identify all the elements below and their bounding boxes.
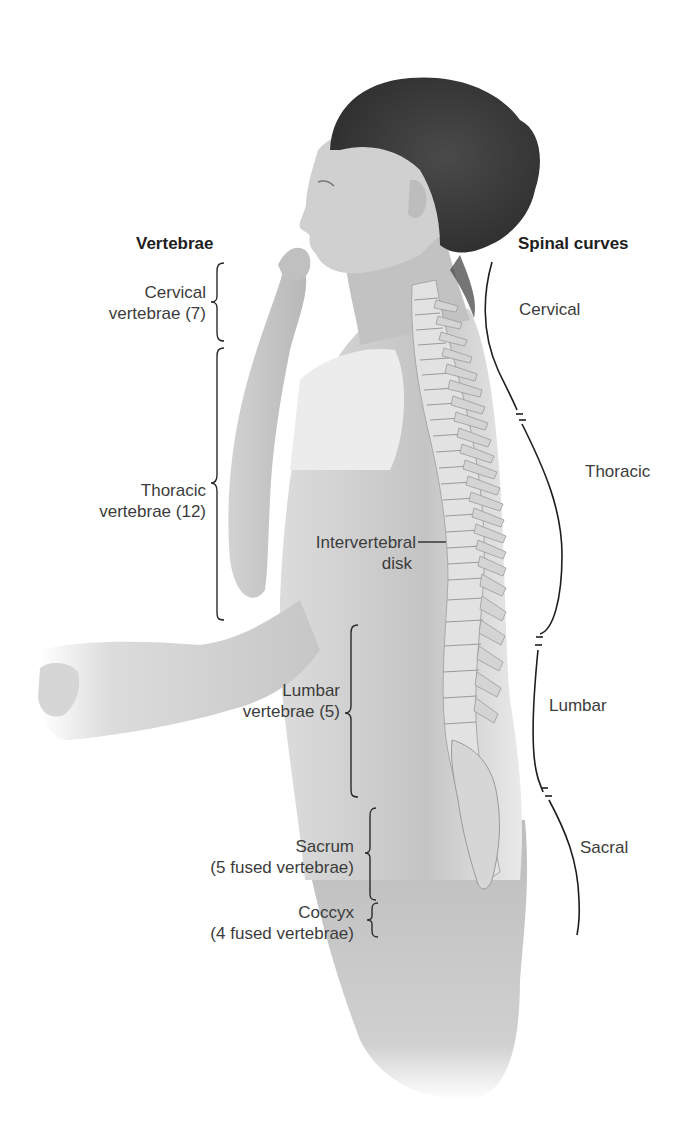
thoracic-brace <box>211 348 224 620</box>
cervical-vertebrae-label-line1: Cervical <box>109 282 206 303</box>
thoracic-vertebrae-label: Thoracic vertebrae (12) <box>99 480 206 522</box>
lumbar-vertebrae-label: Lumbar vertebrae (5) <box>243 680 340 722</box>
sacrum-label-line1: Sacrum <box>210 836 354 857</box>
thoracic-vertebrae-label-line2: vertebrae (12) <box>99 501 206 522</box>
cervical-vertebrae-label: Cervical vertebrae (7) <box>109 282 206 324</box>
coccyx-label-line2: (4 fused vertebrae) <box>210 923 354 944</box>
cervical-brace <box>211 263 224 341</box>
sacrum-label-line2: (5 fused vertebrae) <box>210 857 354 878</box>
vertebrae-heading: Vertebrae <box>136 234 214 254</box>
thoracic-curve-label: Thoracic <box>585 461 650 482</box>
thoracic-vertebrae-label-line1: Thoracic <box>99 480 206 501</box>
coccyx-label: Coccyx (4 fused vertebrae) <box>210 902 354 944</box>
sacral-curve-label: Sacral <box>580 837 628 858</box>
coccyx-label-line1: Coccyx <box>210 902 354 923</box>
intervertebral-disk-label: Intervertebral disk <box>316 532 416 574</box>
intervertebral-disk-label-line1: Intervertebral <box>316 532 416 553</box>
thoracic-curve-line <box>522 424 562 634</box>
lumbar-curve-label: Lumbar <box>549 695 607 716</box>
intervertebral-disk-label-line2: disk <box>316 553 416 574</box>
cervical-curve-label: Cervical <box>519 299 580 320</box>
sacral-curve-line <box>549 800 579 935</box>
spine-diagram: Vertebrae Spinal curves Cervical vertebr… <box>0 0 688 1147</box>
cervical-vertebrae-label-line2: vertebrae (7) <box>109 303 206 324</box>
lumbar-vertebrae-label-line1: Lumbar <box>243 680 340 701</box>
lumbar-vertebrae-label-line2: vertebrae (5) <box>243 701 340 722</box>
spinal-curves-heading: Spinal curves <box>518 234 629 254</box>
lumbar-curve-line <box>533 650 543 792</box>
sacrum-label: Sacrum (5 fused vertebrae) <box>210 836 354 878</box>
